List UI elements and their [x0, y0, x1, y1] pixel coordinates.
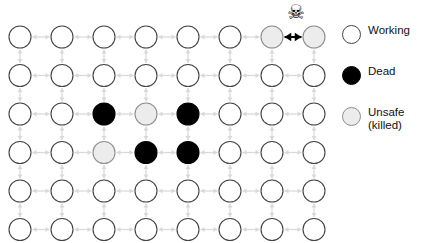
mesh-link	[159, 150, 176, 155]
mesh-link	[186, 165, 191, 179]
mesh-node-working	[261, 219, 283, 241]
mesh-node-working	[177, 219, 199, 241]
mesh-node-working	[303, 65, 325, 87]
mesh-node-working	[51, 65, 73, 87]
mesh-link	[186, 204, 191, 218]
mesh-node-working	[9, 180, 31, 202]
mesh-link	[228, 88, 233, 102]
mesh-link	[186, 88, 191, 102]
mesh-link	[144, 88, 149, 102]
mesh-link	[75, 189, 92, 194]
mesh-link	[285, 73, 302, 78]
mesh-link	[117, 189, 134, 194]
mesh-link	[75, 227, 92, 232]
legend-label-dead: Dead	[368, 65, 396, 78]
mesh-node-unsafe	[93, 142, 115, 164]
legend: Working Dead Unsafe (killed)	[342, 24, 414, 154]
mesh-link	[243, 227, 260, 232]
mesh-link	[33, 150, 50, 155]
mesh-node-working	[219, 26, 241, 48]
mesh-link	[117, 227, 134, 232]
legend-item-working: Working	[342, 24, 414, 44]
nodes-layer	[9, 26, 325, 241]
mesh-link	[33, 227, 50, 232]
mesh-link	[270, 204, 275, 218]
mesh-link	[312, 50, 317, 64]
mesh-link	[159, 112, 176, 117]
mesh-link	[270, 165, 275, 179]
mesh-node-working	[93, 219, 115, 241]
mesh-node-working	[9, 142, 31, 164]
mesh-node-working	[177, 180, 199, 202]
mesh-node-working	[219, 180, 241, 202]
mesh-link	[18, 88, 23, 102]
mesh-node-dead	[177, 103, 199, 125]
mesh-link	[60, 127, 65, 141]
mesh-link	[144, 50, 149, 64]
mesh-link	[117, 112, 134, 117]
mesh-link	[186, 50, 191, 64]
mesh-link	[228, 127, 233, 141]
mesh-link	[243, 35, 260, 40]
mesh-link	[270, 50, 275, 64]
mesh-node-working	[93, 26, 115, 48]
mesh-node-dead	[93, 103, 115, 125]
mesh-link	[285, 189, 302, 194]
mesh-node-unsafe	[261, 26, 283, 48]
mesh-link	[102, 165, 107, 179]
mesh-link	[201, 189, 218, 194]
mesh-link	[60, 50, 65, 64]
mesh-node-unsafe	[135, 103, 157, 125]
mesh-link	[102, 50, 107, 64]
mesh-node-unsafe	[303, 26, 325, 48]
legend-swatch-dead-icon	[342, 66, 361, 85]
mesh-link	[60, 204, 65, 218]
mesh-grid	[0, 0, 340, 243]
mesh-link	[285, 112, 302, 117]
mesh-node-working	[93, 180, 115, 202]
mesh-link	[159, 73, 176, 78]
mesh-node-working	[261, 103, 283, 125]
mesh-node-working	[9, 26, 31, 48]
mesh-node-working	[135, 219, 157, 241]
mesh-link	[144, 204, 149, 218]
mesh-node-working	[51, 219, 73, 241]
mesh-link	[201, 150, 218, 155]
mesh-link	[159, 35, 176, 40]
mesh-link	[312, 165, 317, 179]
mesh-node-working	[219, 219, 241, 241]
mesh-node-working	[135, 26, 157, 48]
mesh-node-working	[9, 65, 31, 87]
mesh-link	[228, 50, 233, 64]
mesh-link	[159, 189, 176, 194]
mesh-node-dead	[135, 142, 157, 164]
mesh-link	[117, 73, 134, 78]
mesh-link	[60, 88, 65, 102]
mesh-link	[33, 112, 50, 117]
mesh-link	[18, 165, 23, 179]
skull-and-crossbones-icon: ☠	[283, 0, 309, 24]
mesh-node-working	[135, 65, 157, 87]
mesh-node-working	[261, 142, 283, 164]
mesh-link	[228, 165, 233, 179]
mesh-link	[18, 204, 23, 218]
mesh-link	[285, 227, 302, 232]
mesh-link	[312, 88, 317, 102]
mesh-node-working	[135, 180, 157, 202]
mesh-link	[243, 112, 260, 117]
legend-swatch-working-icon	[342, 25, 361, 44]
mesh-node-working	[177, 26, 199, 48]
legend-swatch-unsafe-icon	[342, 107, 361, 126]
mesh-link	[18, 50, 23, 64]
mesh-node-working	[219, 103, 241, 125]
mesh-node-working	[9, 103, 31, 125]
mesh-node-working	[93, 65, 115, 87]
mesh-link	[270, 88, 275, 102]
mesh-link	[159, 227, 176, 232]
mesh-link	[102, 127, 107, 141]
mesh-node-working	[261, 65, 283, 87]
mesh-link	[270, 127, 275, 141]
mesh-link	[312, 204, 317, 218]
mesh-link	[285, 33, 302, 41]
mesh-node-working	[51, 180, 73, 202]
